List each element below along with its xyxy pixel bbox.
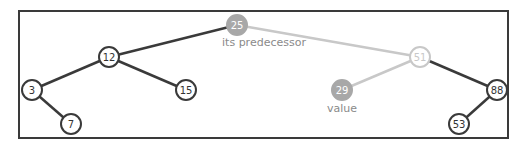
edge-12-3 <box>32 57 109 90</box>
node-12: 12 <box>99 47 119 67</box>
svg-text:25: 25 <box>231 20 244 31</box>
edge-51-88 <box>420 57 497 90</box>
node-25: 25 <box>227 15 247 35</box>
node-88: 88 <box>487 80 507 100</box>
node-53: 53 <box>449 114 469 134</box>
edge-51-29 <box>342 57 420 90</box>
edge-12-15 <box>109 57 186 90</box>
svg-text:3: 3 <box>29 85 35 96</box>
edge-25-12 <box>109 25 237 57</box>
node-15: 15 <box>176 80 196 100</box>
svg-text:29: 29 <box>336 85 349 96</box>
node-29: 29 <box>332 80 352 100</box>
svg-text:51: 51 <box>414 52 427 63</box>
node-51: 51 <box>410 47 430 67</box>
svg-text:15: 15 <box>180 85 193 96</box>
node-7: 7 <box>61 114 81 134</box>
svg-text:88: 88 <box>491 85 504 96</box>
node-3: 3 <box>22 80 42 100</box>
value-label: value <box>327 102 357 115</box>
svg-text:7: 7 <box>68 119 74 130</box>
bst-diagram: 2512371551298853 <box>0 0 529 148</box>
svg-text:53: 53 <box>453 119 466 130</box>
svg-text:12: 12 <box>103 52 116 63</box>
predecessor-label: its predecessor <box>222 36 306 49</box>
